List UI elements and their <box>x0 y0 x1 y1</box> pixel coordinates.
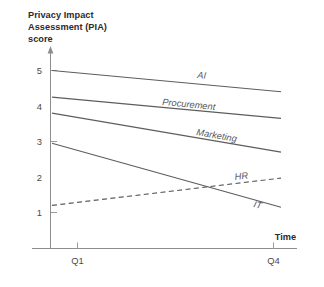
y-tick-label-1: 1 <box>37 207 42 218</box>
series-label-it: IT <box>253 199 265 211</box>
y-tick-label-2: 2 <box>37 172 42 183</box>
series-label-ai: AI <box>196 70 207 81</box>
series-line-hr <box>52 178 281 205</box>
y-tick-label-3: 3 <box>37 136 42 147</box>
y-tick-label-4: 4 <box>37 101 42 112</box>
y-axis-arrow-icon <box>48 46 54 54</box>
series-line-marketing <box>52 113 281 152</box>
y-tick-label-5: 5 <box>37 65 42 76</box>
series-line-ai <box>52 71 281 92</box>
chart-plot-area: 5 4 3 2 1 Q1 Q4 Time AI Procurement Mark… <box>0 0 324 287</box>
x-tick-label-q4: Q4 <box>267 255 280 266</box>
clipped-bottom-caption <box>14 279 314 287</box>
pia-score-line-chart: Privacy Impact Assessment (PIA) score 5 … <box>0 0 324 287</box>
x-tick-label-q1: Q1 <box>71 255 84 266</box>
x-axis-title: Time <box>275 232 296 242</box>
series-label-hr: HR <box>234 170 249 182</box>
